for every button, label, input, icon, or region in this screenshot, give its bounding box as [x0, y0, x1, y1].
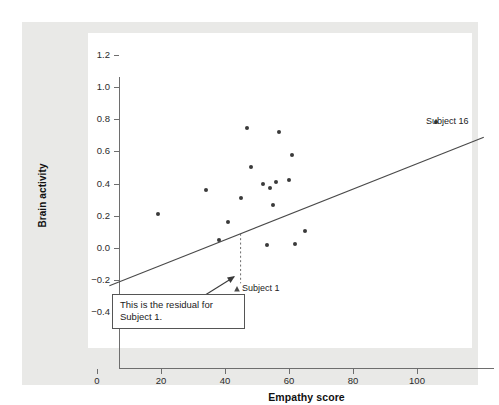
data-point	[217, 238, 221, 242]
y-tick	[114, 248, 119, 249]
y-tick	[114, 119, 119, 120]
y-tick-label: 0.4	[84, 179, 110, 189]
x-tick	[161, 369, 162, 374]
x-tick	[97, 369, 98, 374]
y-tick-label: 1.2	[84, 50, 110, 60]
residual-note-box: This is the residual for Subject 1.	[112, 294, 245, 329]
y-tick-label: −0.2	[84, 275, 110, 285]
y-tick-label: 0.2	[84, 211, 110, 221]
data-point	[265, 243, 269, 247]
data-point	[204, 188, 208, 192]
y-tick	[114, 55, 119, 56]
data-point	[239, 196, 243, 200]
subject-16-label: Subject 16	[426, 116, 469, 126]
x-tick-label: 80	[338, 376, 368, 386]
subject-1-label: Subject 1	[242, 283, 280, 293]
y-tick-label: 1.0	[84, 82, 110, 92]
x-tick-label: 20	[146, 376, 176, 386]
x-tick-label: 40	[210, 376, 240, 386]
data-point	[268, 186, 272, 190]
x-tick	[353, 369, 354, 374]
y-tick	[114, 216, 119, 217]
x-tick	[417, 369, 418, 374]
x-tick-label: 60	[274, 376, 304, 386]
x-tick-label: 0	[82, 376, 112, 386]
data-point	[156, 212, 160, 216]
x-axis-line	[119, 368, 494, 369]
y-tick	[114, 280, 119, 281]
y-tick-label: 0.6	[84, 146, 110, 156]
y-tick	[114, 184, 119, 185]
x-axis-title: Empathy score	[119, 391, 494, 403]
y-tick	[114, 87, 119, 88]
y-axis-title: Brain activity	[37, 136, 48, 256]
x-tick	[225, 369, 226, 374]
x-tick-label: 100	[402, 376, 432, 386]
figure-panel: Brain activity Empathy score 1.21.00.80.…	[22, 22, 478, 385]
y-tick-label: −0.4	[84, 307, 110, 317]
y-tick-label: 0.8	[84, 114, 110, 124]
y-tick	[114, 151, 119, 152]
x-tick	[289, 369, 290, 374]
data-point	[303, 229, 307, 233]
y-tick-label: 0.0	[84, 243, 110, 253]
